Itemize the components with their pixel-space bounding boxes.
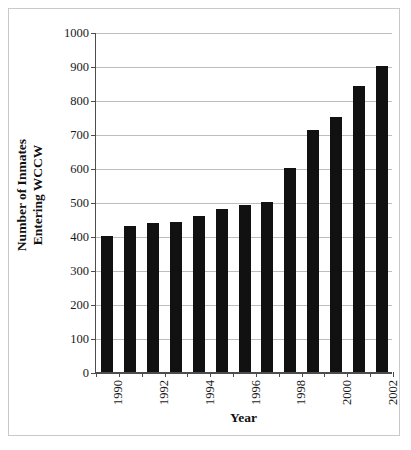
bar [307,130,319,372]
x-axis-tick [233,372,234,377]
bar [170,222,182,372]
y-axis-tick-label: 300 [70,265,89,278]
x-axis-tick [324,372,325,377]
x-axis-tick-label: 1990 [112,380,125,405]
y-axis-tick-label: 800 [70,95,89,108]
x-axis-tick [256,372,257,377]
x-axis-tick-label: 1998 [295,380,308,405]
y-axis-tick-label: 100 [70,333,89,346]
y-axis-tick-label: 600 [70,163,89,176]
x-axis-tick [187,372,188,377]
bar [124,226,136,372]
bar [376,66,388,372]
x-axis-tick-label: 2000 [341,380,354,405]
x-axis-tick [393,372,394,377]
x-axis-tick-label: 1996 [250,380,263,405]
x-axis-tick [165,372,166,377]
bar-series [96,33,392,372]
x-axis-tick [142,372,143,377]
y-axis-title-line-2: Entering WCCW [30,120,46,270]
x-axis-title: Year [95,411,392,425]
x-axis-tick [302,372,303,377]
y-axis-title: Number of Inmates Entering WCCW [14,120,46,270]
bar [353,86,365,372]
bar [147,223,159,372]
bar [193,216,205,372]
bar [239,205,251,372]
x-axis-tick [370,372,371,377]
y-axis-tick-label: 1000 [64,27,89,40]
y-axis-tick-label: 900 [70,61,89,74]
y-axis-tick-label: 700 [70,129,89,142]
x-axis-tick [96,372,97,377]
x-axis-tick [347,372,348,377]
bar [216,209,228,372]
y-axis-tick-label: 0 [83,367,89,380]
x-axis-tick [210,372,211,377]
x-axis-tick [279,372,280,377]
bar [261,202,273,372]
y-axis-tick-label: 200 [70,299,89,312]
chart-page: Number of Inmates Entering WCCW 01002003… [0,0,411,450]
plot-area: 01002003004005006007008009001000 1990199… [95,33,392,373]
bar [101,236,113,372]
x-axis-tick-label: 2002 [387,380,400,405]
bar [284,168,296,372]
y-axis-tick-label: 500 [70,197,89,210]
x-axis-tick-label: 1992 [158,380,171,405]
x-axis-tick [119,372,120,377]
y-axis-title-line-1: Number of Inmates [14,120,30,270]
x-axis-tick-label: 1994 [204,380,217,405]
y-axis-tick-label: 400 [70,231,89,244]
bar [330,117,342,372]
